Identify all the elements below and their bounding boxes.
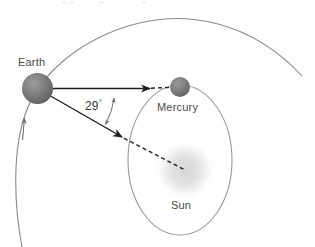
mercury-body xyxy=(170,77,190,97)
earth-label: Earth xyxy=(18,56,45,68)
sun-label: Sun xyxy=(171,199,191,211)
mercury-label: Mercury xyxy=(157,101,198,113)
orbital-diagram: Earth Mercury Sun 29° xyxy=(0,0,315,247)
angle-value: 29 xyxy=(85,99,99,113)
line-of-sight-to-mercury xyxy=(38,87,177,88)
elongation-angle-label: 29° xyxy=(85,98,102,113)
earth-orbit-path xyxy=(16,19,302,247)
elongation-angle-arc xyxy=(106,98,115,125)
diagram-canvas xyxy=(0,0,315,247)
earth-body xyxy=(22,73,53,104)
degree-symbol: ° xyxy=(99,98,102,107)
